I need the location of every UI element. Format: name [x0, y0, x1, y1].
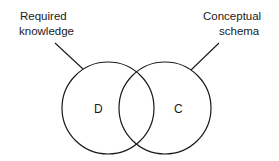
leader-line-required-knowledge: [55, 43, 83, 69]
label-required: Required: [20, 10, 67, 22]
circle-c: [119, 62, 211, 154]
circle-d: [62, 62, 154, 154]
label-schema: schema: [219, 25, 260, 37]
leader-line-conceptual-schema: [191, 43, 219, 70]
label-conceptual: Conceptual: [203, 10, 261, 22]
label-knowledge: knowledge: [19, 25, 74, 37]
set-label-d: D: [94, 102, 103, 116]
venn-diagram: Required knowledge Conceptual schema D C: [0, 0, 279, 161]
set-label-c: C: [174, 102, 183, 116]
